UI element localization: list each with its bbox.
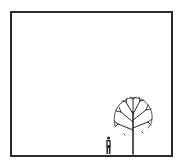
person-icon xyxy=(106,136,110,154)
scene xyxy=(0,0,178,167)
tree-icon xyxy=(114,97,152,154)
